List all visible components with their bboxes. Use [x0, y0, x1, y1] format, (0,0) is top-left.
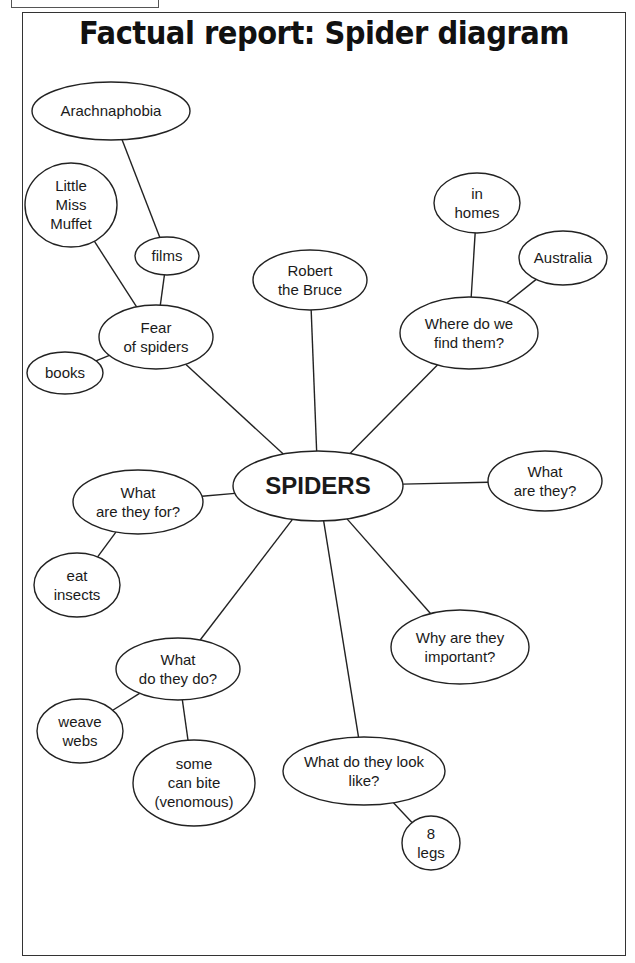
connector-what-do-they-do-to-weave-webs [113, 693, 140, 710]
node-label: some [176, 755, 213, 772]
connector-spiders-to-what-are-they [403, 482, 488, 484]
connector-spiders-to-robert-the-bruce [311, 310, 316, 451]
node-some-can-bite: somecan bite(venomous) [133, 740, 255, 826]
node-why-are-they-important: Why are theyimportant? [391, 610, 529, 684]
node-label: What do they look [304, 753, 425, 770]
node-label: find them? [434, 334, 504, 351]
node-label: insects [54, 586, 101, 603]
connector-spiders-to-fear-of-spiders [186, 364, 284, 454]
node-films: films [135, 237, 199, 275]
connector-spiders-to-why-are-they-important [347, 519, 430, 614]
connector-fear-of-spiders-to-films [160, 275, 164, 305]
node-label: of spiders [123, 338, 188, 355]
node-label: important? [425, 648, 496, 665]
node-label: can bite [168, 774, 221, 791]
node-label: like? [349, 772, 380, 789]
node-label: are they? [514, 482, 577, 499]
node-label: Where do we [425, 315, 513, 332]
node-what-are-they: Whatare they? [488, 451, 602, 511]
connector-what-are-they-for-to-eat-insects [98, 532, 116, 557]
node-what-do-they-do: Whatdo they do? [116, 638, 240, 700]
connector-fear-of-spiders-to-books [96, 355, 110, 360]
node-what-are-they-for: Whatare they for? [73, 470, 203, 534]
connector-where-do-we-find-them-to-australia [507, 279, 536, 302]
connector-films-to-arachnaphobia [122, 140, 160, 238]
node-label: Why are they [416, 629, 505, 646]
node-label: legs [417, 844, 445, 861]
node-label: What [120, 484, 156, 501]
node-australia: Australia [519, 231, 607, 285]
node-label: in [471, 185, 483, 202]
node-label: What [527, 463, 563, 480]
connector-spiders-to-where-do-we-find-them [350, 365, 437, 454]
node-label: 8 [427, 825, 435, 842]
node-label: SPIDERS [265, 472, 370, 499]
node-label: are they for? [96, 503, 180, 520]
node-label: Muffet [50, 215, 92, 232]
node-label: Robert [287, 262, 333, 279]
connector-spiders-to-what-are-they-for [202, 493, 235, 496]
connector-fear-of-spiders-to-little-miss-muffet [94, 241, 136, 307]
node-eat-insects: eatinsects [34, 553, 120, 617]
node-in-homes: inhomes [434, 173, 520, 233]
node-weave-webs: weavewebs [37, 699, 123, 763]
node-arachnaphobia: Arachnaphobia [32, 82, 190, 140]
central-node-spiders: SPIDERS [233, 451, 403, 521]
node-label: the Bruce [278, 281, 342, 298]
connector-what-do-they-look-like-to-8-legs [393, 803, 412, 823]
node-what-do-they-look-like: What do they looklike? [283, 737, 445, 805]
node-label: eat [67, 567, 89, 584]
node-8-legs: 8legs [402, 816, 460, 870]
node-label: webs [61, 732, 97, 749]
node-label: do they do? [139, 670, 217, 687]
node-label: Arachnaphobia [61, 102, 163, 119]
node-label: homes [454, 204, 499, 221]
node-books: books [27, 352, 103, 394]
connector-spiders-to-what-do-they-look-like [324, 521, 359, 737]
node-label: (venomous) [154, 793, 233, 810]
connector-what-do-they-do-to-some-can-bite [182, 700, 188, 740]
node-label: films [152, 247, 183, 264]
node-little-miss-muffet: LittleMissMuffet [25, 163, 117, 247]
connector-where-do-we-find-them-to-in-homes [471, 233, 475, 297]
connector-spiders-to-what-do-they-do [200, 519, 292, 640]
node-robert-the-bruce: Robertthe Bruce [253, 250, 367, 310]
diagram-nodes: SPIDERSFearof spidersfilmsArachnaphobiaL… [25, 82, 607, 870]
node-where-do-we-find-them: Where do wefind them? [400, 297, 538, 369]
node-fear-of-spiders: Fearof spiders [99, 305, 213, 369]
node-label: Fear [141, 319, 172, 336]
spider-diagram: SPIDERSFearof spidersfilmsArachnaphobiaL… [0, 0, 635, 963]
node-label: What [160, 651, 196, 668]
node-label: Miss [56, 196, 87, 213]
node-label: Little [55, 177, 87, 194]
node-label: Australia [534, 249, 593, 266]
node-label: weave [57, 713, 101, 730]
node-label: books [45, 364, 85, 381]
